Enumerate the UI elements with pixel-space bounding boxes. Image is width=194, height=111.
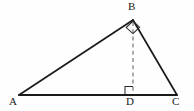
right-angle-marker-d bbox=[125, 87, 133, 95]
vertex-label-a: A bbox=[9, 96, 17, 107]
vertex-label-c: C bbox=[172, 96, 179, 107]
vertex-label-d: D bbox=[126, 96, 134, 107]
geometry-figure: A B C D bbox=[0, 0, 194, 111]
vertex-label-b: B bbox=[128, 1, 135, 12]
segment-bc bbox=[133, 20, 177, 95]
geometry-canvas bbox=[0, 0, 194, 111]
segment-ab bbox=[19, 20, 133, 95]
